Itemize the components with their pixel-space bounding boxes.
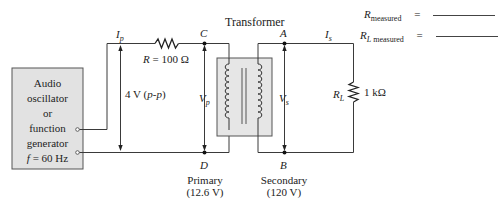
generator-line: oscillator [12, 91, 83, 106]
arrow-up-icon [118, 45, 122, 51]
r-measured-row: Rmeasured = [364, 8, 495, 22]
primary-winding-label: Primary (12.6 V) [182, 174, 228, 198]
arrow-down-icon [282, 145, 286, 151]
load-resistor-rl [349, 82, 358, 102]
arrow-down-icon [118, 145, 122, 151]
voltage-vs-label: Vs [279, 92, 289, 106]
resistor-r-label: R = 100 Ω [143, 53, 189, 65]
node-a-label: A [280, 27, 287, 39]
load-rl-label: RL [333, 88, 344, 102]
current-is-label: Is [325, 28, 332, 42]
generator-line: Audio [12, 76, 83, 91]
node-d-label: D [200, 159, 208, 171]
generator-line: generator [12, 136, 83, 151]
voltage-vp-label: Vp [199, 92, 210, 106]
node-b-dot [283, 151, 287, 155]
node-c-label: C [200, 27, 207, 39]
generator-frequency: f = 60 Hz [12, 151, 83, 166]
arrow-up-icon [202, 45, 206, 51]
node-c-dot [203, 42, 207, 46]
generator-line: function [12, 121, 83, 136]
primary-bottom-wire [80, 130, 230, 153]
source-voltage-label: 4 V (p-p) [125, 88, 166, 100]
secondary-winding-label: Secondary (120 V) [256, 174, 312, 198]
arrow-down-icon [202, 145, 206, 151]
rl-measured-blank[interactable] [436, 35, 498, 37]
generator-label: Audio oscillator or function generator f… [12, 76, 83, 166]
node-d-dot [203, 151, 207, 155]
generator-line: or [12, 106, 83, 121]
r-measured-blank[interactable] [433, 14, 495, 16]
rl-measured-row: RLmeasured = [360, 29, 498, 43]
node-a-dot [283, 42, 287, 46]
load-rl-value: 1 kΩ [364, 86, 386, 98]
node-b-label: B [280, 159, 287, 171]
transformer-title: Transformer [225, 16, 285, 28]
resistor-r [155, 39, 179, 48]
current-ip-label: Ip [116, 28, 124, 42]
arrow-up-icon [282, 45, 286, 51]
